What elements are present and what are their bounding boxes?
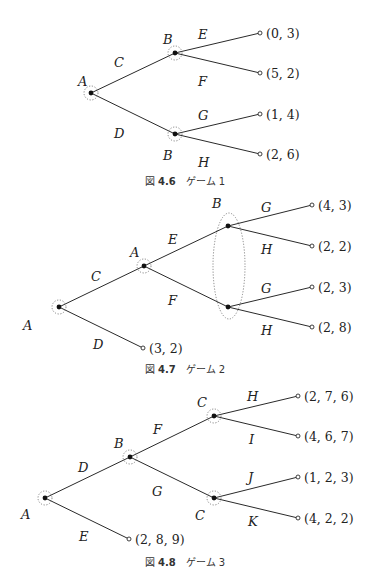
player-label: A xyxy=(77,74,87,89)
game-tree-fig-4-8: DEFGHIJKABCC(2, 7, 6)(4, 6, 7)(1, 2, 3)(… xyxy=(20,389,354,569)
figure-caption: 図 4.7 ゲーム 2 xyxy=(145,364,225,375)
game-tree-fig-4-6: CDEFGHABB(0, 3)(5, 2)(1, 4)(2, 6)図 4.6 ゲ… xyxy=(77,26,300,188)
action-label: I xyxy=(248,432,255,447)
action-label: G xyxy=(261,281,271,296)
action-label: E xyxy=(167,232,178,247)
action-label: F xyxy=(152,422,163,437)
action-label: H xyxy=(260,323,273,338)
tree-edge xyxy=(214,477,298,498)
game-trees-figure-page: CDEFGHABB(0, 3)(5, 2)(1, 4)(2, 6)図 4.6 ゲ… xyxy=(0,0,369,583)
player-label: A xyxy=(129,245,139,260)
payoff-label: (2, 7, 6) xyxy=(304,389,354,404)
terminal-node xyxy=(258,71,262,75)
tree-edge xyxy=(144,226,228,266)
decision-node xyxy=(142,264,147,269)
terminal-node xyxy=(258,152,262,156)
action-label: F xyxy=(197,74,208,89)
tree-edge xyxy=(59,266,144,307)
player-label: B xyxy=(162,148,173,163)
decision-node xyxy=(212,496,217,501)
action-label: D xyxy=(113,126,125,141)
decision-node xyxy=(43,496,48,501)
action-label: K xyxy=(247,514,259,529)
player-label: B xyxy=(162,32,173,47)
caption-prefix: 図 xyxy=(145,176,158,187)
terminal-node xyxy=(258,31,262,35)
terminal-node xyxy=(141,346,145,350)
tree-edge xyxy=(175,134,260,154)
player-label: C xyxy=(195,508,205,523)
payoff-label: (3, 2) xyxy=(149,341,183,356)
tree-edge xyxy=(130,457,214,498)
payoff-label: (2, 3) xyxy=(318,280,352,295)
tree-edge xyxy=(91,93,175,134)
action-label: E xyxy=(197,27,208,42)
tree-edge xyxy=(175,33,260,53)
caption-title: ゲーム 1 xyxy=(176,176,226,187)
action-label: H xyxy=(246,389,259,404)
decision-node xyxy=(89,91,94,96)
caption-number: 4.7 xyxy=(158,364,176,375)
action-label: G xyxy=(198,108,208,123)
caption-title: ゲーム 3 xyxy=(176,557,226,568)
tree-edge xyxy=(91,53,175,93)
decision-node xyxy=(173,51,178,56)
action-label: C xyxy=(91,269,101,284)
action-label: F xyxy=(167,293,178,308)
action-label: D xyxy=(77,460,89,475)
action-label: E xyxy=(78,529,89,544)
terminal-node xyxy=(296,394,300,398)
figure-caption: 図 4.8 ゲーム 3 xyxy=(145,557,225,568)
decision-node xyxy=(226,224,231,229)
terminal-node xyxy=(127,537,131,541)
decision-node xyxy=(173,132,178,137)
decision-node xyxy=(212,414,217,419)
player-label: C xyxy=(197,395,207,410)
terminal-node xyxy=(296,434,300,438)
caption-prefix: 図 xyxy=(145,364,158,375)
tree-edge xyxy=(175,114,260,134)
player-label: A xyxy=(22,318,32,333)
decision-node xyxy=(128,455,133,460)
decision-node xyxy=(226,305,231,310)
terminal-node xyxy=(296,516,300,520)
figure-caption: 図 4.6 ゲーム 1 xyxy=(145,176,225,187)
player-label: B xyxy=(211,196,222,211)
action-label: H xyxy=(260,242,273,257)
caption-title: ゲーム 2 xyxy=(176,364,226,375)
payoff-label: (2, 2) xyxy=(318,239,352,254)
tree-edge xyxy=(175,53,260,73)
terminal-node xyxy=(310,285,314,289)
action-label: D xyxy=(92,337,104,352)
payoff-label: (4, 3) xyxy=(318,198,352,213)
payoff-label: (1, 4) xyxy=(266,107,300,122)
terminal-node xyxy=(296,475,300,479)
action-label: H xyxy=(197,155,210,170)
terminal-node xyxy=(258,112,262,116)
action-label: G xyxy=(152,484,162,499)
payoff-label: (1, 2, 3) xyxy=(304,470,354,485)
player-label: A xyxy=(20,507,30,522)
payoff-label: (2, 6) xyxy=(266,147,300,162)
caption-number: 4.6 xyxy=(158,176,176,187)
payoff-label: (2, 8, 9) xyxy=(135,532,185,547)
action-label: G xyxy=(261,200,271,215)
payoff-label: (0, 3) xyxy=(266,26,300,41)
terminal-node xyxy=(310,244,314,248)
tree-edge xyxy=(144,266,228,307)
payoff-label: (4, 2, 2) xyxy=(304,511,354,526)
action-label: J xyxy=(245,470,254,485)
terminal-node xyxy=(310,203,314,207)
tree-edge xyxy=(214,416,298,436)
game-tree-fig-4-7: CDEFGHGHAAB(4, 3)(2, 2)(2, 3)(2, 8)(3, 2… xyxy=(22,196,352,375)
payoff-label: (5, 2) xyxy=(266,66,300,81)
decision-node xyxy=(57,305,62,310)
player-label: B xyxy=(113,436,124,451)
action-label: C xyxy=(114,55,124,70)
caption-prefix: 図 xyxy=(145,557,158,568)
caption-number: 4.8 xyxy=(158,557,176,568)
payoff-label: (4, 6, 7) xyxy=(304,429,354,444)
terminal-node xyxy=(310,325,314,329)
tree-edge xyxy=(130,416,214,457)
payoff-label: (2, 8) xyxy=(318,320,352,335)
